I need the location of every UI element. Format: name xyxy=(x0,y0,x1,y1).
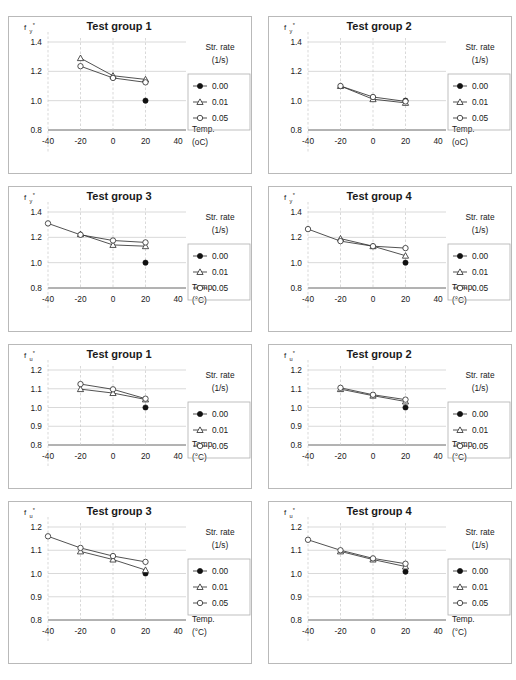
x-tick-label: 40 xyxy=(173,451,183,461)
y-axis-label: fy* xyxy=(24,22,36,34)
legend[interactable]: Str. rate(1/s)0.000.010.05 xyxy=(448,212,510,300)
legend-label-0-00[interactable]: 0.00 xyxy=(212,566,229,576)
series-0-00 xyxy=(143,98,148,103)
series-0-00 xyxy=(403,405,408,410)
legend-label-0-01[interactable]: 0.01 xyxy=(472,267,489,277)
data-point-filled-circle xyxy=(403,260,408,265)
legend[interactable]: Str. rate(1/s)0.000.010.05 xyxy=(188,42,250,130)
legend-label-0-01[interactable]: 0.01 xyxy=(472,425,489,435)
x-tick-label: -20 xyxy=(335,294,347,304)
y-tick-label: 1.0 xyxy=(290,96,302,106)
svg-text:*: * xyxy=(293,22,296,28)
legend-label-0-00[interactable]: 0.00 xyxy=(212,251,229,261)
panel-title: Test group 2 xyxy=(346,348,411,360)
svg-text:u: u xyxy=(30,513,33,519)
panel-title: Test group 1 xyxy=(86,348,151,360)
legend-label-0-00[interactable]: 0.00 xyxy=(472,566,489,576)
svg-text:f: f xyxy=(24,193,27,202)
legend-label-0-00[interactable]: 0.00 xyxy=(472,81,489,91)
data-point-open-circle xyxy=(110,553,115,558)
svg-text:y: y xyxy=(30,28,33,34)
svg-text:y: y xyxy=(30,198,33,204)
data-point-open-circle xyxy=(45,534,50,539)
legend-label-0-01[interactable]: 0.01 xyxy=(212,425,229,435)
legend-label-0-01[interactable]: 0.01 xyxy=(472,97,489,107)
data-point-open-circle xyxy=(403,397,408,402)
legend[interactable]: Str. rate(1/s)0.000.010.05 xyxy=(448,42,510,130)
legend-title-line1: Str. rate xyxy=(205,42,234,52)
x-axis-unit: (°C) xyxy=(192,452,207,462)
data-point-open-circle xyxy=(45,221,50,226)
legend-marker-filled-circle xyxy=(457,411,462,416)
chart-panel-2: Test group 3fy*0.81.01.21.4-40-2002040Te… xyxy=(0,178,256,336)
chart-panel-1: Test group 2fy*0.81.01.21.4-40-2002040Te… xyxy=(260,8,516,178)
legend-label-0-05[interactable]: 0.05 xyxy=(212,598,229,608)
data-point-open-circle xyxy=(370,556,375,561)
legend-label-0-00[interactable]: 0.00 xyxy=(212,81,229,91)
data-point-filled-circle xyxy=(143,98,148,103)
legend-title-line1: Str. rate xyxy=(465,370,494,380)
x-tick-label: 20 xyxy=(401,451,411,461)
legend-marker-filled-circle xyxy=(457,253,462,258)
y-tick-label: 1.0 xyxy=(290,403,302,413)
legend-label-0-05[interactable]: 0.05 xyxy=(212,113,229,123)
legend-label-0-00[interactable]: 0.00 xyxy=(472,251,489,261)
x-tick-label: 20 xyxy=(141,451,151,461)
x-tick-label: 0 xyxy=(111,294,116,304)
legend[interactable]: Str. rate(1/s)0.000.010.05 xyxy=(448,527,510,615)
x-axis-unit: (°C) xyxy=(452,452,467,462)
data-point-open-circle xyxy=(78,232,83,237)
x-tick-label: 40 xyxy=(433,626,443,636)
legend-label-0-01[interactable]: 0.01 xyxy=(212,582,229,592)
data-point-open-circle xyxy=(338,548,343,553)
x-tick-label: 0 xyxy=(371,626,376,636)
legend-marker-open-circle xyxy=(197,443,202,448)
legend-label-0-00[interactable]: 0.00 xyxy=(212,409,229,419)
data-point-open-circle xyxy=(403,99,408,104)
data-point-open-circle xyxy=(403,245,408,250)
panel-title: Test group 4 xyxy=(346,190,412,202)
legend-label-0-01[interactable]: 0.01 xyxy=(212,267,229,277)
plot-area: Test group 1fu*0.80.91.01.11.2-40-200204… xyxy=(0,336,256,493)
y-tick-label: 1.2 xyxy=(290,365,302,375)
legend[interactable]: Str. rate(1/s)0.000.010.05 xyxy=(188,370,250,458)
plot-area: Test group 2fu*0.80.91.01.11.2-40-200204… xyxy=(260,336,516,493)
legend-title-line1: Str. rate xyxy=(205,370,234,380)
legend-label-0-05[interactable]: 0.05 xyxy=(212,441,229,451)
svg-text:*: * xyxy=(293,350,296,356)
svg-text:*: * xyxy=(293,192,296,198)
svg-text:y: y xyxy=(290,28,293,34)
x-tick-label: 20 xyxy=(401,294,411,304)
svg-text:f: f xyxy=(284,351,287,360)
legend[interactable]: Str. rate(1/s)0.000.010.05 xyxy=(448,370,510,458)
y-tick-label: 0.9 xyxy=(290,592,302,602)
legend-label-0-05[interactable]: 0.05 xyxy=(472,113,489,123)
legend-label-0-05[interactable]: 0.05 xyxy=(472,598,489,608)
legend-label-0-00[interactable]: 0.00 xyxy=(472,409,489,419)
series-path xyxy=(308,229,406,248)
svg-text:u: u xyxy=(30,356,33,362)
chart-panel-5: Test group 2fu*0.80.91.01.11.2-40-200204… xyxy=(260,336,516,493)
x-axis-unit: (°C) xyxy=(452,627,467,637)
legend-marker-open-circle xyxy=(457,443,462,448)
x-tick-label: -20 xyxy=(75,626,87,636)
data-point-filled-circle xyxy=(403,569,408,574)
legend-label-0-01[interactable]: 0.01 xyxy=(472,582,489,592)
y-tick-label: 1.1 xyxy=(290,545,302,555)
y-tick-label: 1.0 xyxy=(30,569,42,579)
series-0-05 xyxy=(305,537,408,566)
legend-label-0-01[interactable]: 0.01 xyxy=(212,97,229,107)
plot-area: Test group 1fy*0.81.01.21.4-40-2002040Te… xyxy=(0,8,256,178)
legend-marker-open-circle xyxy=(457,115,462,120)
x-tick-label: 20 xyxy=(141,294,151,304)
legend-label-0-05[interactable]: 0.05 xyxy=(472,441,489,451)
legend-title-line1: Str. rate xyxy=(205,527,234,537)
legend[interactable]: Str. rate(1/s)0.000.010.05 xyxy=(188,212,250,300)
x-tick-label: -20 xyxy=(75,451,87,461)
legend[interactable]: Str. rate(1/s)0.000.010.05 xyxy=(188,527,250,615)
plot-area: Test group 3fu*0.80.91.01.11.2-40-200204… xyxy=(0,493,256,668)
legend-label-0-05[interactable]: 0.05 xyxy=(212,283,229,293)
legend-label-0-05[interactable]: 0.05 xyxy=(472,283,489,293)
y-tick-label: 1.2 xyxy=(30,66,42,76)
legend-marker-filled-circle xyxy=(197,83,202,88)
